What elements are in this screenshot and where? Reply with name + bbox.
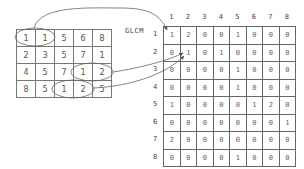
arrow-to-glcm-1-2-a <box>113 53 183 72</box>
annotation-overlay <box>0 0 304 169</box>
pair-ellipse-1-1 <box>15 28 55 46</box>
arrow-to-glcm-1-1 <box>34 8 167 30</box>
pair-ellipse-row4 <box>52 80 94 98</box>
pair-ellipse-row3 <box>71 63 113 81</box>
arrow-to-glcm-1-2-b <box>94 56 184 88</box>
